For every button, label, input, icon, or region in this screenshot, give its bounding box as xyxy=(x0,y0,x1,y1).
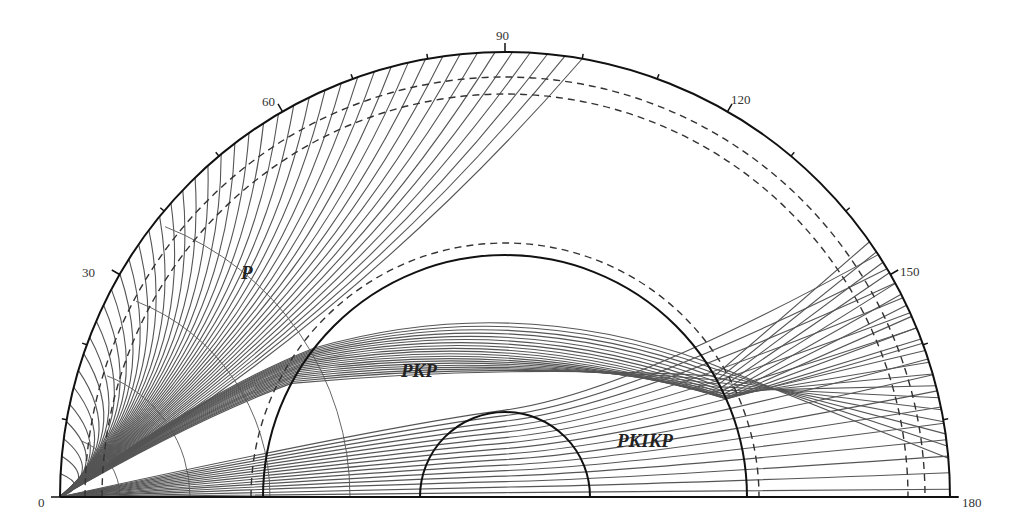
tick-mark xyxy=(112,270,120,275)
angle-label-60: 60 xyxy=(262,94,275,109)
tick-mark xyxy=(791,152,794,156)
dashed-circle xyxy=(102,94,908,497)
ray-path xyxy=(60,97,309,497)
ray-path xyxy=(60,269,887,497)
tick-mark xyxy=(943,419,948,420)
ray-path xyxy=(60,114,278,497)
angle-label-180: 180 xyxy=(962,495,982,510)
tick-mark xyxy=(351,74,353,79)
tick-mark xyxy=(62,419,67,420)
pkikp-ray-paths xyxy=(60,255,950,497)
ray-path xyxy=(60,252,876,497)
tick-mark xyxy=(82,343,87,345)
tick-mark xyxy=(923,343,928,345)
earth-surface xyxy=(60,52,950,497)
tick-mark xyxy=(582,54,583,59)
tick-mark xyxy=(278,104,283,112)
earth-layer-boundaries xyxy=(60,52,958,497)
tick-mark xyxy=(657,74,659,79)
phase-label-pkp: PKP xyxy=(400,360,437,381)
tick-mark xyxy=(890,270,898,275)
angle-label-30: 30 xyxy=(82,265,95,280)
seismic-ray-diagram: 0 30 60 90 120 150 180 P PKP PKIKP xyxy=(0,0,1028,532)
pkp-ray-paths xyxy=(60,242,948,497)
angle-label-90: 90 xyxy=(496,28,509,43)
ray-path xyxy=(60,90,325,497)
tick-mark xyxy=(216,152,219,156)
dashed-reference-circles xyxy=(85,77,925,497)
tick-mark xyxy=(427,54,428,59)
angle-label-0: 0 xyxy=(38,495,45,510)
tick-mark xyxy=(846,208,850,211)
dashed-circle xyxy=(85,77,925,497)
angle-label-150: 150 xyxy=(900,264,920,279)
tick-mark xyxy=(160,208,164,211)
phase-label-pkikp: PKIKP xyxy=(616,430,673,451)
angle-label-120: 120 xyxy=(731,92,751,107)
phase-label-p: P xyxy=(240,262,253,283)
